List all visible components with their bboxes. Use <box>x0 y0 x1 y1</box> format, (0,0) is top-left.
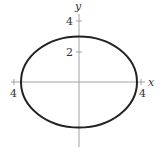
x-tick-label-4: 4 <box>139 87 146 100</box>
x-axis-label: x <box>148 76 155 89</box>
y-axis-label: y <box>74 0 82 13</box>
ellipse-chart: y x 4 2 4 4 <box>0 0 165 152</box>
y-tick-label-2: 2 <box>66 46 73 59</box>
y-tick-label-4: 4 <box>66 15 73 28</box>
x-tick-label-neg4: 4 <box>10 87 17 100</box>
